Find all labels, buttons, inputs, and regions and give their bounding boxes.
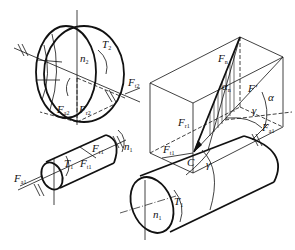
label-n1-small: n1 xyxy=(124,140,133,153)
torque-arrow-icon xyxy=(98,50,107,74)
label-n1-shaft: n1 xyxy=(153,208,162,221)
label-Fa2: Fa2 xyxy=(56,103,69,116)
label-gamma-box: γ xyxy=(252,104,257,116)
label-Fprime: F′ xyxy=(247,82,258,94)
label-gamma-contact: γ xyxy=(206,158,211,170)
arrowhead-icon xyxy=(194,140,202,152)
label-alpha: α xyxy=(268,91,274,103)
rotation-arrow-icon xyxy=(66,78,70,96)
label-T2: T2 xyxy=(102,38,111,51)
label-alpha-n: αn xyxy=(222,80,231,93)
label-Fa1-small: Fa1 xyxy=(13,172,26,185)
label-T1-shaft: T1 xyxy=(174,195,183,208)
helical-gear-force-diagram: T2 n2 Ft2 Fa2 Fr2 Fr1 T1 Ft1 n1 Fa1 xyxy=(0,0,295,250)
diagram-svg: T2 n2 Ft2 Fa2 Fr2 Fr1 T1 Ft1 n1 Fa1 xyxy=(0,0,295,250)
large-gear xyxy=(14,10,140,125)
label-Fr1-small: Fr1 xyxy=(91,142,104,155)
label-Ft1-contact: Ft1 xyxy=(162,143,174,156)
label-Ft1-small: Ft1 xyxy=(79,157,91,170)
label-Fa1-box: Fa1 xyxy=(261,121,274,134)
label-Fr2: Fr2 xyxy=(78,103,91,116)
label-C: C xyxy=(187,156,195,168)
label-T1-small: T1 xyxy=(64,157,73,170)
label-n2: n2 xyxy=(80,52,89,65)
label-Fr1-box: Fr1 xyxy=(177,116,190,129)
label-Ft2: Ft2 xyxy=(127,76,139,89)
bearing-icon xyxy=(105,90,116,102)
bearing-icon xyxy=(34,184,44,196)
label-Fn: Fn xyxy=(217,52,228,65)
